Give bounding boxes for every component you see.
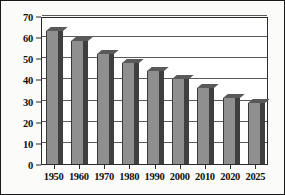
x-tick-label-2010: 2010	[192, 171, 217, 191]
x-tick-label-2025: 2025	[243, 171, 268, 191]
y-tick-label-60: 60	[23, 33, 33, 44]
bar-front-face	[147, 71, 159, 164]
x-tick-mark-2020	[230, 165, 231, 169]
y-tick-label-70: 70	[23, 12, 33, 23]
y-tick-label-40: 40	[23, 75, 33, 86]
bar-top-face	[197, 84, 219, 88]
bar-side-face	[83, 38, 88, 164]
bar-front-face	[248, 103, 260, 164]
bar-1970	[97, 50, 114, 164]
bar-top-face	[248, 99, 270, 103]
bar-front-face	[197, 88, 209, 164]
bar-top-face	[172, 75, 194, 79]
bar-side-face	[209, 85, 214, 164]
bar-1950	[46, 27, 63, 164]
bar-front-face	[223, 98, 235, 164]
bar-1990	[147, 67, 164, 164]
plot-area	[41, 17, 268, 165]
bar-side-face	[184, 76, 189, 164]
x-axis: 195019601970198019902000201020202025	[41, 171, 268, 191]
bar-side-face	[260, 100, 265, 164]
x-tick-mark-1980	[129, 165, 130, 169]
bar-front-face	[71, 41, 83, 164]
chart-frame: 010203040506070 195019601970198019902000…	[0, 0, 285, 195]
bar-front-face	[122, 63, 134, 164]
bar-2000	[172, 75, 189, 164]
bar-side-face	[109, 51, 114, 164]
bar-top-face	[122, 59, 144, 63]
bar-1960	[71, 37, 88, 164]
y-tick-label-0: 0	[28, 160, 33, 171]
bar-side-face	[134, 60, 139, 164]
x-tick-mark-1960	[79, 165, 80, 169]
x-tick-label-2000: 2000	[167, 171, 192, 191]
x-tick-label-2020: 2020	[218, 171, 243, 191]
x-tick-label-1950: 1950	[41, 171, 66, 191]
bar-top-face	[223, 94, 245, 98]
bar-top-face	[147, 67, 169, 71]
bar-1980	[122, 59, 139, 164]
y-axis: 010203040506070	[1, 1, 41, 195]
y-tick-label-30: 30	[23, 96, 33, 107]
bar-top-face	[71, 37, 93, 41]
x-tick-mark-1970	[104, 165, 105, 169]
bar-front-face	[172, 79, 184, 164]
bar-top-face	[97, 50, 119, 54]
bar-front-face	[97, 54, 109, 164]
bar-2020	[223, 94, 240, 164]
x-tick-mark-2025	[255, 165, 256, 169]
bar-2025	[248, 99, 265, 164]
y-tick-label-50: 50	[23, 54, 33, 65]
x-tick-label-1960: 1960	[66, 171, 91, 191]
y-tick-label-10: 10	[23, 138, 33, 149]
bar-side-face	[235, 95, 240, 164]
x-tick-mark-1950	[54, 165, 55, 169]
bar-top-face	[46, 27, 68, 31]
bar-side-face	[159, 68, 164, 164]
bar-side-face	[58, 28, 63, 164]
bar-2010	[197, 84, 214, 164]
x-tick-label-1980: 1980	[117, 171, 142, 191]
x-tick-mark-2010	[205, 165, 206, 169]
x-tick-mark-2000	[180, 165, 181, 169]
bar-front-face	[46, 31, 58, 164]
x-tick-label-1990: 1990	[142, 171, 167, 191]
gridline-70	[42, 15, 267, 16]
y-tick-label-20: 20	[23, 117, 33, 128]
bars-layer	[42, 18, 267, 164]
x-tick-label-1970: 1970	[91, 171, 116, 191]
x-tick-mark-1990	[155, 165, 156, 169]
